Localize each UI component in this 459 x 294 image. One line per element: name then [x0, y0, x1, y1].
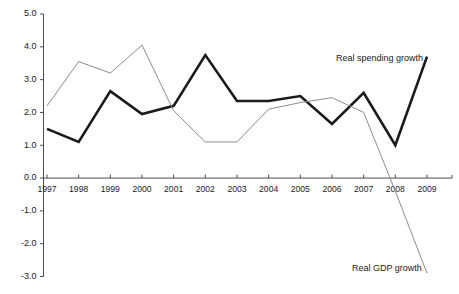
x-tick-label: 2005 — [291, 184, 310, 194]
series-line-real-spending-growth — [47, 55, 427, 145]
line-chart: 5.04.03.02.01.00.0-1.0-2.0-3.0 199719981… — [0, 0, 459, 294]
y-tick-label: 5.0 — [24, 8, 37, 18]
annotation-real-spending-growth: Real spending growth — [336, 53, 423, 63]
x-tick-label: 2007 — [354, 184, 373, 194]
x-tick-label: 2001 — [164, 184, 183, 194]
x-tick-label: 2009 — [417, 184, 436, 194]
x-tick-label: 1999 — [101, 184, 120, 194]
y-tick-label: -1.0 — [21, 205, 37, 215]
series-lines — [47, 45, 427, 273]
chart-container: 5.04.03.02.01.00.0-1.0-2.0-3.0 199719981… — [0, 0, 459, 294]
x-tick-label: 2004 — [259, 184, 278, 194]
y-tick-label: -3.0 — [21, 271, 37, 281]
y-tick-label: 0.0 — [24, 172, 37, 182]
x-tick-label: 2000 — [132, 184, 151, 194]
x-tick-label: 2006 — [322, 184, 341, 194]
x-tick-label: 1998 — [69, 184, 88, 194]
y-tick-label: 3.0 — [24, 74, 37, 84]
y-tick-label: 2.0 — [24, 107, 37, 117]
x-tick-label: 2002 — [196, 184, 215, 194]
series-line-real-gdp-growth — [47, 45, 427, 273]
annotation-real-gdp-growth: Real GDP growth — [352, 263, 422, 273]
x-tick-label: 2003 — [227, 184, 246, 194]
x-tick-label: 1997 — [37, 184, 56, 194]
y-tick-label: 4.0 — [24, 41, 37, 51]
y-axis: 5.04.03.02.01.00.0-1.0-2.0-3.0 — [21, 8, 44, 281]
y-tick-label: 1.0 — [24, 140, 37, 150]
series-annotations: Real spending growthReal GDP growth — [336, 53, 423, 273]
y-tick-label: -2.0 — [21, 238, 37, 248]
